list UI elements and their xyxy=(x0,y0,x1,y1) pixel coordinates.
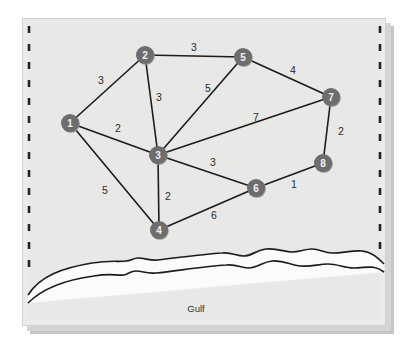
edge-weight-3-6: 3 xyxy=(210,156,216,168)
edge-weight-5-7: 4 xyxy=(290,64,296,76)
map-figure: 3253325376412 12345678 Gulf xyxy=(0,0,414,354)
edge-weight-6-8: 1 xyxy=(291,178,297,190)
edge-weight-3-4: 2 xyxy=(165,190,171,202)
map-canvas: 3253325376412 12345678 Gulf xyxy=(0,0,414,354)
edge-weight-1-3: 2 xyxy=(115,122,121,134)
node-circle-6[interactable] xyxy=(247,179,265,197)
node-circle-2[interactable] xyxy=(136,46,154,64)
edge-weight-7-8: 2 xyxy=(338,125,344,137)
edge-weight-2-3: 3 xyxy=(156,91,162,103)
edge-weight-1-2: 3 xyxy=(98,74,104,86)
node-circle-5[interactable] xyxy=(234,48,252,66)
edge-weight-4-6: 6 xyxy=(211,209,217,221)
edge-weight-1-4: 5 xyxy=(102,184,108,196)
node-circle-7[interactable] xyxy=(322,88,340,106)
node-circle-4[interactable] xyxy=(150,221,168,239)
graph-edge-3-4 xyxy=(158,155,159,230)
edge-weight-2-5: 3 xyxy=(191,41,197,53)
node-circle-3[interactable] xyxy=(149,146,167,164)
node-circle-8[interactable] xyxy=(314,154,332,172)
edge-weight-3-7: 7 xyxy=(253,111,259,123)
edge-weight-3-5: 5 xyxy=(205,82,211,94)
node-circle-1[interactable] xyxy=(61,114,79,132)
gulf-label: Gulf xyxy=(187,303,205,314)
